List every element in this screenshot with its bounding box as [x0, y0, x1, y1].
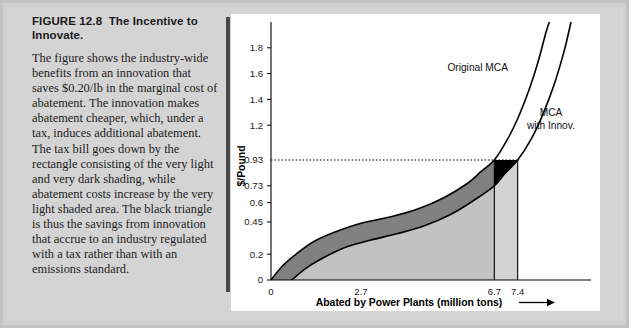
original-mca-label: Original MCA — [447, 62, 508, 73]
figure-title: FIGURE 12.8 The Incentive to Innovate. — [32, 14, 218, 42]
x-tick-label: 6.7 — [488, 286, 501, 297]
chart-annotations: Original MCAMCAwith Innov. — [447, 62, 575, 131]
y-tick-label: 1.6 — [250, 68, 263, 79]
mca-with-innov-label-line2: with Innov. — [526, 120, 575, 131]
y-tick-label: 1.4 — [250, 94, 264, 105]
chart-panel: 00.20.450.60.730.931.21.41.61.8 02.76.77… — [231, 14, 600, 311]
figure-caption-column: FIGURE 12.8 The Incentive to Innovate. T… — [32, 14, 218, 314]
y-tick-label: 0.6 — [250, 197, 263, 208]
y-tick-label: 0.45 — [244, 216, 263, 227]
y-tick-label: 1.2 — [250, 120, 263, 131]
y-axis-ticks — [267, 48, 271, 280]
x-tick-label: 0 — [268, 286, 273, 297]
chart-shaded-regions — [271, 160, 518, 280]
x-tick-label: 7.4 — [511, 286, 525, 297]
y-tick-label: 0.93 — [244, 154, 263, 165]
y-tick-label: 0.73 — [244, 180, 263, 191]
chart-svg: 00.20.450.60.730.931.21.41.61.8 02.76.77… — [231, 14, 600, 311]
y-tick-label: 0.2 — [250, 249, 263, 260]
x-tick-label: 2.7 — [354, 286, 367, 297]
figure-caption-text: The figure shows the industry-wide benef… — [32, 51, 218, 277]
mca-with-innov-label-line1: MCA — [540, 107, 563, 118]
x-axis-tick-labels: 02.76.77.4 — [268, 286, 525, 297]
y-axis-title: $/Pound — [236, 146, 247, 187]
figure-container: FIGURE 12.8 The Incentive to Innovate. T… — [0, 0, 629, 328]
x-axis-arrow — [519, 299, 555, 306]
x-axis-title: Abated by Power Plants (million tons) — [316, 297, 502, 308]
y-tick-label: 1.8 — [250, 42, 263, 53]
figure-number: FIGURE 12.8 — [32, 15, 102, 27]
y-tick-label: 0 — [258, 274, 263, 285]
caption-chart-divider — [226, 17, 230, 292]
y-axis-tick-labels: 00.20.450.60.730.931.21.41.61.8 — [244, 42, 263, 285]
